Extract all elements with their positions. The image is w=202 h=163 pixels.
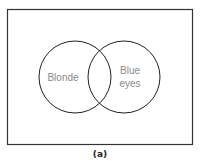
set-label-blonde: Blonde <box>47 72 79 83</box>
universe-frame <box>8 10 193 145</box>
set-circle-blue-eyes <box>88 41 160 113</box>
venn-diagram: Blonde Blue eyes (a) <box>0 0 202 163</box>
set-label-blue-eyes-line2: eyes <box>119 78 140 89</box>
set-label-blue-eyes-line1: Blue <box>120 65 140 76</box>
figure-caption: (a) <box>93 149 107 159</box>
